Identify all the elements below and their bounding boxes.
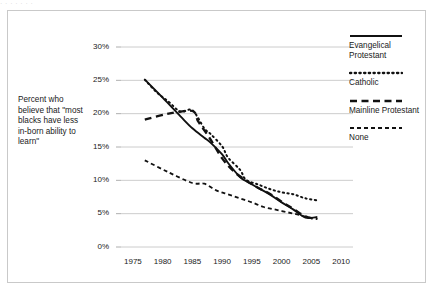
- x-tick-label: 1975: [118, 257, 148, 266]
- x-tick-label: 1980: [148, 257, 178, 266]
- x-tick-label: 2000: [267, 257, 297, 266]
- chart-legend: Evangelical ProtestantCatholicMainline P…: [349, 31, 421, 150]
- figure-frame: Percent who believe that "most blacks ha…: [7, 10, 426, 283]
- x-tick-label: 1995: [237, 257, 267, 266]
- legend-entry[interactable]: Evangelical Protestant: [349, 31, 421, 61]
- long-dash-line-swatch: [349, 96, 403, 105]
- x-tick-label: 1990: [207, 257, 237, 266]
- series-line-mainline-protestant: [145, 111, 318, 219]
- y-tick-label: 30%: [83, 42, 109, 51]
- y-tick-label: 5%: [83, 208, 109, 217]
- legend-label: Evangelical Protestant: [349, 41, 421, 61]
- legend-label: Catholic: [349, 78, 421, 88]
- cropped-header-text: · · · · · · ·: [0, 0, 435, 6]
- legend-entry[interactable]: None: [349, 123, 421, 143]
- series-line-catholic: [145, 80, 318, 201]
- y-tick-label: 15%: [83, 142, 109, 151]
- x-tick-label: 2005: [296, 257, 326, 266]
- legend-entry[interactable]: Catholic: [349, 68, 421, 88]
- legend-label: None: [349, 133, 421, 143]
- x-tick-label: 2010: [326, 257, 356, 266]
- y-tick-label: 25%: [83, 75, 109, 84]
- x-tick-label: 1985: [177, 257, 207, 266]
- y-tick-label: 10%: [83, 175, 109, 184]
- y-tick-label: 0%: [83, 242, 109, 251]
- series-line-evangelical-protestant: [145, 80, 318, 218]
- chart-area: Percent who believe that "most blacks ha…: [8, 11, 427, 284]
- legend-label: Mainline Protestant: [349, 106, 421, 116]
- solid-line-swatch: [349, 31, 403, 40]
- legend-entry[interactable]: Mainline Protestant: [349, 96, 421, 116]
- short-dash-line-swatch: [349, 123, 403, 132]
- y-tick-label: 20%: [83, 108, 109, 117]
- dotted-line-swatch: [349, 68, 403, 77]
